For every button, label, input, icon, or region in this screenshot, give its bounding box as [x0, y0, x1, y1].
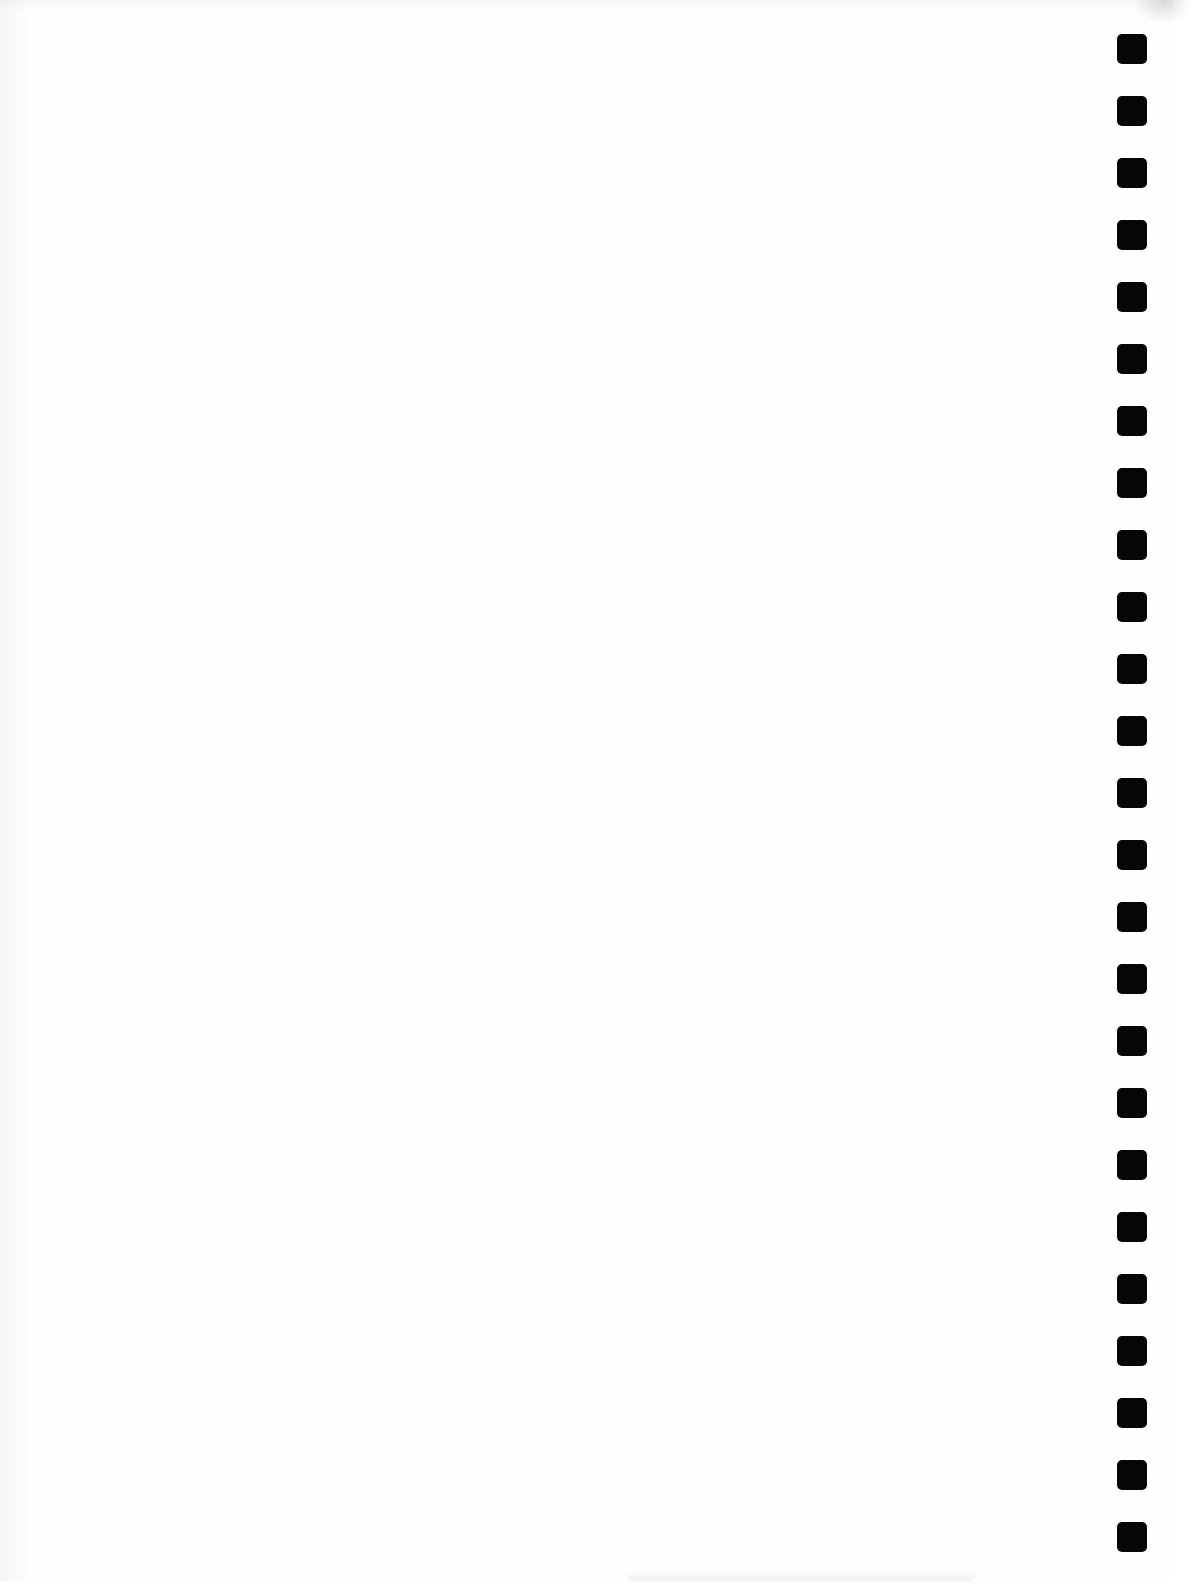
binding-hole-mark: [1117, 964, 1147, 994]
binding-hole-mark: [1117, 1336, 1147, 1366]
page-corner-shadow: [1133, 0, 1193, 25]
binding-hole-mark: [1117, 344, 1147, 374]
page-edge-shadow: [0, 0, 30, 1581]
page-top-shadow: [0, 0, 1173, 12]
binding-hole-mark: [1117, 158, 1147, 188]
binding-hole-mark: [1117, 778, 1147, 808]
binding-hole-mark: [1117, 840, 1147, 870]
binding-hole-mark: [1117, 1398, 1147, 1428]
binding-hole-mark: [1117, 530, 1147, 560]
binding-hole-mark: [1117, 220, 1147, 250]
binding-hole-mark: [1117, 716, 1147, 746]
binding-holes-column: [1117, 34, 1147, 1584]
binding-hole-mark: [1117, 468, 1147, 498]
binding-hole-mark: [1117, 1088, 1147, 1118]
binding-hole-mark: [1117, 1150, 1147, 1180]
binding-hole-mark: [1117, 1026, 1147, 1056]
binding-hole-mark: [1117, 406, 1147, 436]
binding-hole-mark: [1117, 902, 1147, 932]
binding-hole-mark: [1117, 96, 1147, 126]
binding-hole-mark: [1117, 1274, 1147, 1304]
binding-hole-mark: [1117, 282, 1147, 312]
binding-hole-mark: [1117, 1212, 1147, 1242]
binding-hole-mark: [1117, 34, 1147, 64]
binding-hole-mark: [1117, 592, 1147, 622]
binding-hole-mark: [1117, 1460, 1147, 1490]
bottom-scan-smudge: [628, 1572, 973, 1581]
binding-hole-mark: [1117, 654, 1147, 684]
binding-hole-mark: [1117, 1522, 1147, 1552]
